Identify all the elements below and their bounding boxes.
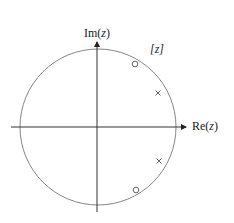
imaginary-axis-label: Im(z) <box>84 27 110 39</box>
pole-marker-upper <box>156 91 161 96</box>
z-plane-canvas <box>0 0 234 223</box>
zero-marker-lower <box>133 187 139 193</box>
real-axis-label: Re(z) <box>192 120 218 132</box>
pole-marker-lower <box>157 159 162 164</box>
zero-marker-upper <box>132 61 138 67</box>
re-label-suffix: ) <box>214 119 218 133</box>
im-label-suffix: ) <box>106 26 110 40</box>
re-label-prefix: Re( <box>192 119 209 133</box>
z-plane-label: [z] <box>150 43 164 55</box>
im-label-prefix: Im( <box>84 26 101 40</box>
pole-zero-diagram: Im(z) Re(z) [z] <box>0 0 234 223</box>
